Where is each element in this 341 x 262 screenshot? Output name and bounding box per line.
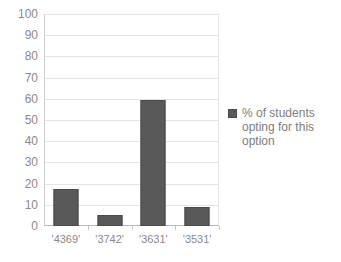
y-tick-label: 100 — [2, 8, 38, 20]
category-separator — [88, 226, 89, 230]
y-tick-label: 10 — [2, 199, 38, 211]
bars-layer — [44, 14, 219, 226]
y-tick-label: 90 — [2, 29, 38, 41]
y-tick-label: 60 — [2, 93, 38, 105]
bar-3742[interactable] — [97, 215, 122, 226]
bar-4369[interactable] — [53, 189, 78, 226]
bar-slot — [44, 14, 88, 226]
y-tick-label: 20 — [2, 178, 38, 190]
plot-area — [44, 14, 219, 226]
category-separator — [132, 226, 133, 230]
bar-slot — [132, 14, 176, 226]
y-tick-label: 30 — [2, 156, 38, 168]
x-tick-label-2: '3631' — [132, 232, 176, 246]
category-separator — [175, 226, 176, 230]
x-tick-label-0: '4369' — [44, 232, 88, 246]
y-tick-label: 70 — [2, 72, 38, 84]
y-tick-label: 80 — [2, 50, 38, 62]
category-separator — [219, 226, 220, 230]
y-tick-label: 50 — [2, 114, 38, 126]
bar-slot — [175, 14, 219, 226]
bar-3631[interactable] — [141, 100, 166, 226]
bar-3531[interactable] — [185, 207, 210, 226]
x-tick-label-1: '3742' — [88, 232, 132, 246]
y-tick-label: 40 — [2, 135, 38, 147]
legend-swatch-icon — [228, 109, 237, 118]
y-tick-label: 0 — [2, 220, 38, 232]
bar-chart: 100 90 80 70 60 50 40 30 20 10 0 — [0, 0, 341, 262]
y-axis: 100 90 80 70 60 50 40 30 20 10 0 — [0, 14, 38, 226]
x-tick-label-3: '3531' — [175, 232, 219, 246]
bar-slot — [88, 14, 132, 226]
legend-label: % of students opting for this option — [242, 106, 334, 148]
x-axis: '4369' '3742' '3631' '3531' — [44, 232, 219, 250]
chart-legend: % of students opting for this option — [228, 106, 338, 148]
